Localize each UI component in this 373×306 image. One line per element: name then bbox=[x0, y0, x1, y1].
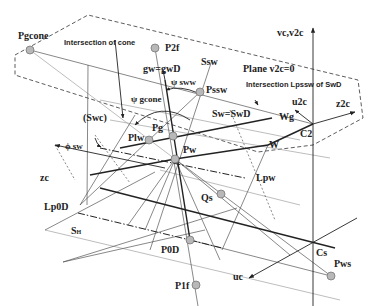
label-cs: Cs bbox=[316, 248, 327, 258]
label-pssw: Pssw bbox=[206, 85, 227, 95]
label-pg: Pg bbox=[152, 123, 163, 133]
point-p1f bbox=[192, 281, 200, 289]
label-w: W bbox=[269, 140, 279, 150]
point-pgcone bbox=[26, 46, 34, 54]
point-p2f bbox=[151, 44, 159, 52]
label-sh: SH bbox=[71, 226, 81, 236]
label-lp0d: Lp0D bbox=[44, 202, 68, 212]
label-p2f: P2f bbox=[165, 43, 179, 53]
label-phi-sw: ϕ sw bbox=[65, 142, 83, 151]
point-pws bbox=[327, 272, 335, 280]
label-pw: Pw bbox=[183, 145, 196, 155]
axis-label-z2c: z2c bbox=[336, 99, 350, 109]
label-ssw: Ssw bbox=[201, 57, 218, 67]
point-qs bbox=[217, 190, 225, 198]
axis-label-uc: uc bbox=[233, 272, 243, 282]
point-pg bbox=[169, 132, 177, 140]
label-pws: Pws bbox=[334, 259, 351, 269]
label-lpw: Lpw bbox=[256, 173, 275, 183]
point-pssw bbox=[196, 88, 204, 96]
label-psi-gcone: ψ gcone bbox=[131, 95, 161, 104]
label-pgcone: Pgcone bbox=[18, 31, 49, 41]
axes bbox=[55, 28, 357, 306]
point-p0d bbox=[186, 236, 194, 244]
label-c2: C2 bbox=[300, 129, 312, 139]
label-intersection-cone: Intersection of cone bbox=[64, 39, 135, 47]
label-plane: Plane v2c=0 bbox=[243, 64, 295, 74]
axis-label-vc: vc,v2c bbox=[277, 28, 303, 38]
angle-arcs bbox=[95, 40, 258, 147]
point-plw bbox=[145, 136, 153, 144]
label-plw: Plw bbox=[128, 133, 144, 143]
label-p1f: P1f bbox=[175, 281, 189, 291]
label-psi-sww: ψ sww bbox=[171, 78, 196, 87]
label-swc: (Swc) bbox=[83, 113, 107, 123]
label-sw: Sw=SwD bbox=[212, 109, 251, 119]
label-sh-sub: H bbox=[77, 229, 82, 235]
point-pw bbox=[171, 155, 179, 163]
label-qs: Qs bbox=[201, 193, 213, 203]
label-intersection-lpssw: Intersection Lpssw of SwD bbox=[246, 81, 341, 89]
label-wg: Wg bbox=[279, 112, 294, 122]
axis-label-u2c: u2c bbox=[292, 97, 307, 107]
label-p0d: P0D bbox=[161, 245, 179, 255]
label-gw: gw=gwD bbox=[143, 64, 180, 74]
axis-label-zc: zc bbox=[40, 173, 49, 183]
